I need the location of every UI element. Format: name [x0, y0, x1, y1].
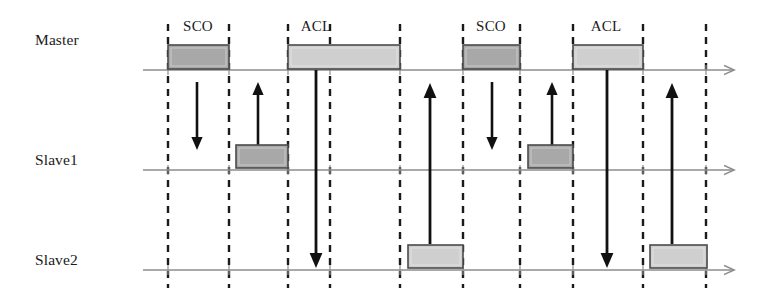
packet-type-label-sco-master-2: SCO	[476, 18, 506, 35]
arrow-s2-to-m-acl1-head	[424, 83, 437, 98]
arrow-m-to-s2-acl1-head	[310, 253, 323, 268]
packet-type-label-sco-master-1: SCO	[183, 18, 213, 35]
packet-box-sco-master-1[interactable]	[168, 45, 229, 69]
arrow-s2-to-m-acl2-head	[666, 83, 679, 98]
arrow-s2-to-m-acl1	[424, 83, 437, 244]
packet-type-label-acl-master-2: ACL	[591, 18, 622, 35]
arrow-m-to-s2-acl2-head	[601, 253, 614, 268]
timing-diagram-svg	[0, 0, 770, 300]
arrow-s1-to-m-sco2	[546, 82, 557, 145]
arrow-s1-to-m-sco1-head	[252, 82, 263, 95]
lane-label-master: Master	[35, 31, 79, 49]
arrow-m-to-s2-acl2	[601, 70, 614, 268]
arrow-s1-to-m-sco2-head	[546, 82, 557, 95]
lane-label-slave2: Slave2	[35, 251, 78, 269]
packet-box-acl-master-2[interactable]	[573, 45, 643, 69]
arrow-s1-to-m-sco1	[252, 82, 263, 145]
packet-box-acl-master-1[interactable]	[288, 45, 400, 69]
arrow-m-to-s1-sco2-head	[486, 137, 497, 150]
arrow-m-to-s1-sco1-head	[191, 137, 202, 150]
arrow-m-to-s2-acl1	[310, 70, 323, 268]
arrow-m-to-s1-sco1	[191, 82, 202, 150]
lane-label-slave1: Slave1	[35, 151, 78, 169]
arrow-s2-to-m-acl2	[666, 83, 679, 244]
packet-type-label-acl-master-1: ACL	[301, 18, 332, 35]
packet-box-sco-master-2[interactable]	[463, 45, 520, 69]
timing-diagram-canvas: MasterSlave1Slave2SCOACLSCOACL	[0, 0, 770, 300]
arrow-m-to-s1-sco2	[486, 82, 497, 150]
